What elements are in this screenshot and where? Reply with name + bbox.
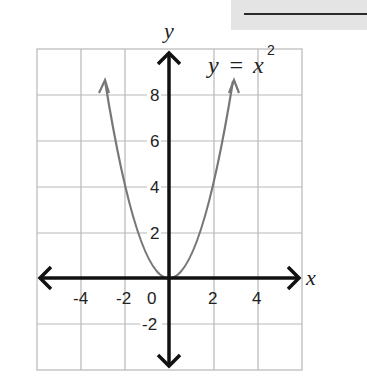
x-tick-m2: -2 (116, 289, 131, 308)
x-tick-m4: -4 (73, 289, 88, 308)
x-tick-2: 2 (208, 289, 217, 308)
equation-lhs: y (206, 52, 219, 78)
equation-equals: = (228, 52, 244, 78)
parabola-chart: y x y = x 2 -4 -2 0 2 4 8 6 4 2 -2 (0, 0, 367, 382)
x-tick-labels: -4 -2 0 2 4 (73, 289, 261, 308)
equation-exponent: 2 (267, 42, 275, 58)
x-axis-label: x (305, 265, 316, 290)
y-tick-8: 8 (150, 86, 159, 105)
x-tick-4: 4 (252, 289, 261, 308)
equation-base: x (252, 52, 264, 78)
x-tick-0: 0 (147, 289, 156, 308)
y-tick-m2: -2 (142, 315, 157, 334)
y-tick-4: 4 (150, 178, 159, 197)
curve-arrowhead-left (99, 80, 109, 93)
curve-arrowhead-right (229, 80, 239, 93)
y-tick-6: 6 (150, 132, 159, 151)
y-axis-label: y (162, 18, 174, 43)
y-tick-2: 2 (150, 224, 159, 243)
